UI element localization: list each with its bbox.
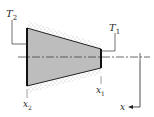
x-axis-line [132, 61, 140, 107]
x1-label: x1 [96, 85, 105, 97]
x-axis-arrowhead-icon [128, 105, 133, 109]
diagram-canvas: T2 T1 x1 x2 x [0, 0, 154, 117]
t1-leader [101, 33, 115, 51]
t2-leader [12, 20, 27, 44]
tapered-rod-diagram: T2 T1 x1 x2 x [0, 0, 154, 117]
x-axis-label: x [120, 102, 125, 112]
t2-label: T2 [6, 8, 17, 22]
x2-label: x2 [23, 99, 32, 111]
t1-label: T1 [109, 22, 120, 36]
